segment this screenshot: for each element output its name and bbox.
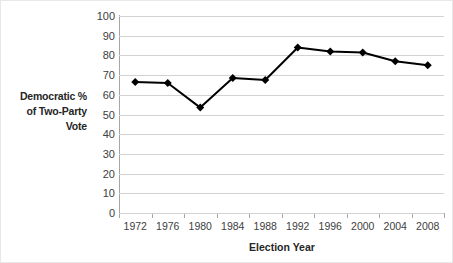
x-tick-mark-1972 [152, 214, 153, 218]
plot-area [119, 16, 444, 213]
y-tick-label-30: 30 [89, 148, 115, 160]
chart-figure: Democratic % of Two-Party Vote 100908070… [0, 0, 453, 263]
x-tick-mark-1988 [282, 214, 283, 218]
y-axis-title: Democratic % of Two-Party Vote [3, 89, 87, 134]
data-point-2000 [359, 48, 367, 56]
y-tick-label-50: 50 [89, 109, 115, 121]
series-line [135, 48, 428, 108]
y-tick-label-90: 90 [89, 30, 115, 42]
y-tick-label-60: 60 [89, 89, 115, 101]
x-axis-tick-labels: 1972197619801984198819921996200020042008 [119, 214, 445, 238]
y-axis-title-line-1: Democratic % [3, 89, 87, 104]
x-tick-mark-1976 [184, 214, 185, 218]
x-axis-title: Election Year [119, 241, 445, 253]
x-tick-mark-2008 [444, 214, 445, 218]
y-axis-title-line-3: Vote [3, 119, 87, 134]
y-axis-title-line-2: of Two-Party [3, 104, 87, 119]
data-point-2008 [424, 61, 432, 69]
data-point-2004 [391, 57, 399, 65]
x-tick-mark-1996 [347, 214, 348, 218]
line-series-democratic-vote [119, 16, 444, 213]
x-tick-mark-1980 [217, 214, 218, 218]
data-point-1972 [131, 78, 139, 86]
y-tick-label-70: 70 [89, 69, 115, 81]
x-tick-mark-origin [119, 214, 120, 218]
y-tick-label-10: 10 [89, 187, 115, 199]
y-tick-label-0: 0 [89, 207, 115, 219]
y-tick-label-100: 100 [89, 10, 115, 22]
y-tick-label-20: 20 [89, 168, 115, 180]
data-point-1996 [326, 47, 334, 55]
x-tick-mark-2000 [379, 214, 380, 218]
y-tick-label-80: 80 [89, 49, 115, 61]
y-axis-tick-labels: 1009080706050403020100 [87, 1, 115, 263]
x-tick-mark-1984 [249, 214, 250, 218]
y-tick-label-40: 40 [89, 128, 115, 140]
x-tick-mark-2004 [412, 214, 413, 218]
x-tick-label-2008: 2008 [408, 220, 448, 232]
x-tick-mark-1992 [314, 214, 315, 218]
